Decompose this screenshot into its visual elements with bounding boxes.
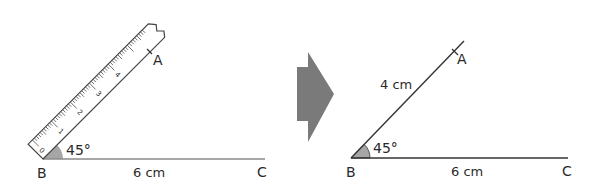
- right-panel: A B C 45° 4 cm 6 cm: [346, 41, 572, 180]
- vertex-label-b-left: B: [37, 165, 47, 181]
- angle-label-left: 45°: [66, 142, 91, 158]
- vertex-label-c-right: C: [562, 163, 572, 179]
- vertex-label-a-right: A: [457, 51, 467, 67]
- angle-label-right: 45°: [373, 140, 398, 156]
- base-length-label-right: 6 cm: [451, 164, 483, 179]
- construction-diagram: 01234 A B C 45° 6 cm A B C 45° 4 cm 6 cm: [0, 0, 596, 189]
- segment-ba-right: [351, 41, 464, 158]
- side-ab-length-label: 4 cm: [380, 77, 412, 92]
- ruler: 01234: [28, 20, 167, 159]
- base-length-label-left: 6 cm: [133, 165, 165, 180]
- ruler-body: [28, 20, 167, 159]
- vertex-label-a-left: A: [153, 52, 163, 68]
- vertex-label-c-left: C: [257, 164, 267, 180]
- transition-arrow-icon: [297, 52, 334, 142]
- vertex-label-b-right: B: [346, 164, 356, 180]
- left-panel: 01234 A B C 45° 6 cm: [28, 20, 267, 181]
